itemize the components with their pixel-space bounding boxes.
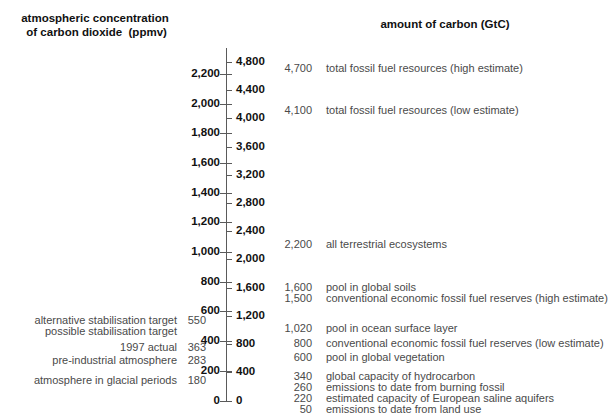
ppmv-annotation-value: 283 (182, 354, 206, 366)
gtc-tick-label: 1,600 (236, 281, 265, 293)
gtc-tick-label: 400 (236, 365, 255, 377)
ppmv-tick-mark (220, 311, 232, 312)
ppmv-tick-mark (220, 74, 232, 75)
gtc-annotation: 220estimated capacity of European saline… (272, 392, 554, 404)
diagram-canvas: atmospheric concentration of carbon diox… (0, 0, 616, 419)
gtc-annotation: 4,100total fossil fuel resources (low es… (272, 104, 519, 116)
ppmv-tick-mark (220, 163, 232, 164)
gtc-tick-label: 3,600 (236, 140, 265, 152)
vertical-axis-line (226, 48, 227, 401)
gtc-tick-mark (226, 147, 232, 148)
gtc-annotation-label: total fossil fuel resources (high estima… (326, 62, 523, 74)
gtc-annotation: 50emissions to date from land use (272, 403, 481, 415)
ppmv-tick-mark (220, 341, 232, 342)
ppmv-annotation-label: atmosphere in glacial periods (34, 374, 177, 386)
gtc-tick-label: 4,000 (236, 111, 265, 123)
gtc-annotation-label: total fossil fuel resources (low estimat… (326, 104, 519, 116)
gtc-annotation: 340global capacity of hydrocarbon (272, 370, 475, 382)
gtc-annotation-value: 2,200 (272, 238, 312, 250)
ppmv-annotation: pre-industrial atmosphere283 (52, 354, 206, 366)
gtc-tick-mark (226, 203, 232, 204)
gtc-tick-mark (226, 118, 232, 119)
gtc-tick-label: 2,400 (236, 224, 265, 236)
gtc-annotation-label: emissions to date from burning fossil (326, 381, 505, 393)
gtc-annotation-label: pool in global soils (326, 281, 416, 293)
gtc-annotation-value: 1,020 (272, 322, 312, 334)
gtc-tick-label: 800 (236, 337, 255, 349)
gtc-annotation: 2,200all terrestrial ecosystems (272, 238, 447, 250)
ppmv-tick-mark (220, 252, 232, 253)
gtc-annotation: 600pool in global vegetation (272, 351, 445, 363)
gtc-tick-mark (226, 401, 232, 402)
gtc-tick-label: 3,200 (236, 168, 265, 180)
gtc-annotation-label: conventional economic fossil fuel reserv… (326, 292, 608, 304)
gtc-tick-mark (226, 344, 232, 345)
gtc-annotation-value: 1,500 (272, 292, 312, 304)
gtc-annotation: 260emissions to date from burning fossil (272, 381, 505, 393)
gtc-tick-label: 2,000 (236, 252, 265, 264)
gtc-tick-mark (226, 90, 232, 91)
gtc-annotation: 1,500conventional economic fossil fuel r… (272, 292, 608, 304)
gtc-annotation-label: estimated capacity of European saline aq… (326, 392, 554, 404)
gtc-tick-label: 1,200 (236, 309, 265, 321)
ppmv-tick-mark (220, 133, 232, 134)
gtc-annotation-value: 600 (272, 351, 312, 363)
gtc-annotation: 1,600pool in global soils (272, 281, 416, 293)
ppmv-tick-mark (220, 193, 232, 194)
gtc-annotation-label: all terrestrial ecosystems (326, 238, 447, 250)
gtc-tick-mark (226, 316, 232, 317)
gtc-tick-label: 4,800 (236, 55, 265, 67)
gtc-tick-mark (226, 62, 232, 63)
gtc-annotation: 4,700total fossil fuel resources (high e… (272, 62, 523, 74)
gtc-annotation-label: global capacity of hydrocarbon (326, 370, 475, 382)
gtc-annotation-label: emissions to date from land use (326, 403, 481, 415)
ppmv-tick-mark (220, 104, 232, 105)
gtc-annotation-label: conventional economic fossil fuel reserv… (326, 337, 604, 349)
gtc-tick-mark (226, 259, 232, 260)
gtc-annotation-value: 800 (272, 337, 312, 349)
gtc-annotation: 1,020pool in ocean surface layer (272, 322, 457, 334)
ppmv-annotation-label: 1997 actual (120, 341, 177, 353)
ppmv-annotation-label: pre-industrial atmosphere (52, 354, 177, 366)
ppmv-tick-mark (220, 282, 232, 283)
ppmv-annotation: 1997 actual363 (120, 341, 206, 353)
gtc-annotation-value: 4,100 (272, 104, 312, 116)
gtc-tick-label: 4,400 (236, 83, 265, 95)
gtc-annotation-label: pool in global vegetation (326, 351, 445, 363)
gtc-annotation-label: pool in ocean surface layer (326, 322, 457, 334)
gtc-tick-mark (226, 175, 232, 176)
gtc-annotation-value: 220 (272, 392, 312, 404)
ppmv-annotation-value: 180 (182, 374, 206, 386)
ppmv-annotation-list: alternative stabilisation target550possi… (0, 0, 206, 419)
gtc-tick-mark (226, 372, 232, 373)
gtc-tick-mark (226, 288, 232, 289)
gtc-annotation-value: 260 (272, 381, 312, 393)
gtc-tick-label: 0 (236, 394, 242, 406)
gtc-annotation-value: 340 (272, 370, 312, 382)
gtc-annotation-list: 4,700total fossil fuel resources (high e… (272, 0, 616, 419)
ppmv-annotation: possible stabilisation target (45, 325, 206, 337)
gtc-tick-mark (226, 231, 232, 232)
gtc-annotation: 800conventional economic fossil fuel res… (272, 337, 604, 349)
gtc-annotation-value: 4,700 (272, 62, 312, 74)
ppmv-annotation-value: 363 (182, 341, 206, 353)
gtc-annotation-value: 1,600 (272, 281, 312, 293)
gtc-annotation-value: 50 (272, 403, 312, 415)
gtc-tick-label: 2,800 (236, 196, 265, 208)
ppmv-annotation-label: possible stabilisation target (45, 325, 177, 337)
ppmv-annotation: atmosphere in glacial periods180 (34, 374, 206, 386)
ppmv-tick-mark (220, 222, 232, 223)
